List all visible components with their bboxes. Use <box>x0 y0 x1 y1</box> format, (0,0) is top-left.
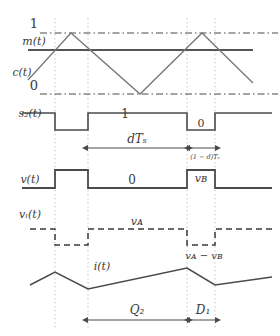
label-level-one: 1 <box>30 16 38 31</box>
label-v-of-t: v(t) <box>20 173 39 186</box>
label-v-b: vʙ <box>195 172 207 185</box>
panel-vL: vₗ(t) vᴀ vᴀ − vʙ <box>19 208 272 261</box>
label-level-zero: 0 <box>30 78 38 93</box>
label-vL-of-t: vₗ(t) <box>19 208 41 221</box>
panel-v: v(t) 0 vʙ <box>20 170 272 188</box>
waveform-svg: 1 m(t) c(t) 0 s₂(t) 1 0 dTₛ (1 − d)Tₛ v(… <box>0 0 280 336</box>
v-waveform <box>22 170 272 188</box>
carrier-triangle-wave <box>28 33 253 94</box>
label-v-a: vᴀ <box>131 215 143 228</box>
vL-waveform <box>30 229 272 245</box>
label-c-of-t: c(t) <box>12 66 31 79</box>
i-waveform <box>30 268 272 289</box>
label-va-minus-vb: vᴀ − vʙ <box>185 250 223 261</box>
label-v-zero: 0 <box>128 173 136 187</box>
label-m-of-t: m(t) <box>22 35 45 48</box>
label-q2: Q₂ <box>130 303 145 317</box>
waveform-figure: 1 m(t) c(t) 0 s₂(t) 1 0 dTₛ (1 − d)Tₛ v(… <box>0 0 280 336</box>
label-d1: D₁ <box>195 303 210 317</box>
panel-i: i(t) Q₂ D₁ <box>30 260 272 320</box>
label-s2-low: 0 <box>198 117 205 130</box>
label-s2-high: 1 <box>121 107 129 121</box>
s2-waveform <box>22 113 272 130</box>
panel-s2: s₂(t) 1 0 dTₛ (1 − d)Tₛ <box>18 107 272 161</box>
label-i-of-t: i(t) <box>94 260 111 273</box>
panel-modulator: 1 m(t) c(t) 0 <box>12 16 278 94</box>
label-dts: dTₛ <box>127 132 147 146</box>
label-one-minus-d-ts: (1 − d)Tₛ <box>190 153 219 161</box>
label-s2-of-t: s₂(t) <box>18 107 41 120</box>
